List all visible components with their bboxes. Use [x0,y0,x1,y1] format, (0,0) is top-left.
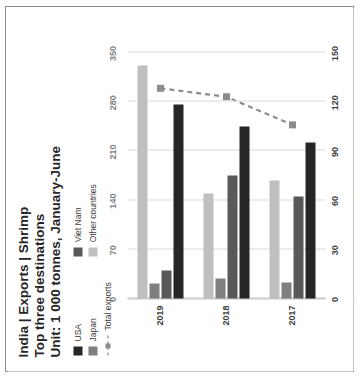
legend-swatch-icon-other-countries [88,247,97,256]
legend-item-japan[interactable]: Japan [87,282,99,355]
bar-group-2019 [128,54,194,299]
bar-japan-2018[interactable] [216,279,226,299]
primary-tick-30: 30 [330,245,340,255]
category-label-2018: 2018 [221,305,231,325]
bar-other-countries-2018[interactable] [204,194,214,299]
chart-title-block: India | Exports | Shrimp Top three desti… [16,146,64,358]
secondary-tick-350: 350 [108,46,118,61]
legend-item-usa[interactable]: USA [72,282,84,355]
legend-swatch-icon-usa [73,347,82,356]
secondary-tick-280: 280 [108,95,118,110]
legend-swatch-icon-japan [88,347,97,356]
bar-group-2017 [260,54,326,299]
primary-tick-150: 150 [330,46,340,61]
bar-viet-nam-2018[interactable] [228,176,238,299]
legend-item-viet-nam[interactable]: Viet Nam [72,184,84,256]
legend-item-other-countries[interactable]: Other countries [87,184,99,256]
legend-label-japan: Japan [88,318,98,341]
bar-usa-2018[interactable] [240,126,250,298]
primary-tick-90: 90 [330,147,340,157]
legend-label-other-countries: Other countries [88,184,98,242]
bar-group-2018 [194,54,260,299]
bar-viet-nam-2017[interactable] [294,197,304,299]
chart-frame: India | Exports | Shrimp Top three desti… [5,6,354,372]
bar-japan-2017[interactable] [282,282,292,298]
chart-unit-label: Unit: 1 000 tonnes, January-June [48,146,64,358]
bar-usa-2019[interactable] [174,105,184,299]
secondary-tick-70: 70 [108,245,118,255]
secondary-tick-140: 140 [108,194,118,209]
bar-japan-2019[interactable] [150,284,160,299]
bar-viet-nam-2019[interactable] [162,271,172,299]
primary-tick-0: 0 [330,297,340,302]
bar-usa-2017[interactable] [306,143,316,299]
legend-swatch-icon-viet-nam [73,247,82,256]
page-title: India | Exports | Shrimp [16,146,32,358]
plot-area [128,54,326,300]
primary-axis-ticks: 0306090120150 [330,54,348,300]
secondary-tick-0: 0 [108,297,118,302]
legend-label-viet-nam: Viet Nam [73,207,83,242]
gridline [128,52,326,53]
category-label-2017: 2017 [287,305,297,325]
legend-dashed-line-icon [103,336,112,356]
chart-subtitle: Top three destinations [32,146,48,358]
bar-other-countries-2017[interactable] [270,180,280,298]
legend-label-usa: USA [73,324,83,341]
primary-tick-60: 60 [330,196,340,206]
figure: India | Exports | Shrimp Top three desti… [8,9,354,372]
primary-tick-120: 120 [330,95,340,110]
secondary-axis-ticks: 070140210280350 [108,54,126,300]
source-note: Source: Ministry of Commerce, India [353,190,356,355]
category-label-2019: 2019 [155,305,165,325]
secondary-tick-210: 210 [108,144,118,159]
rotated-figure-wrapper: India | Exports | Shrimp Top three desti… [6,7,355,373]
bar-other-countries-2019[interactable] [138,66,148,299]
